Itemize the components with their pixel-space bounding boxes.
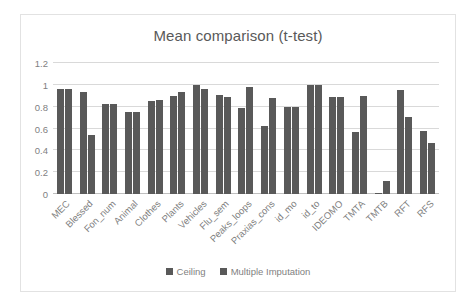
- x-axis-tick-label: RFT: [392, 198, 413, 219]
- bar: [133, 112, 140, 194]
- bar: [178, 92, 185, 194]
- chart-legend: CeilingMultiple Imputation: [21, 266, 455, 277]
- bar-group: [416, 63, 439, 194]
- bar: [201, 89, 208, 194]
- x-tick-slot: RFT: [394, 194, 417, 264]
- bar-group: [280, 63, 303, 194]
- bar: [193, 85, 200, 194]
- x-tick-slot: Fon_num: [98, 194, 121, 264]
- bar: [102, 104, 109, 194]
- x-tick-slot: TMTB: [371, 194, 394, 264]
- bar: [80, 92, 87, 194]
- legend-swatch-icon: [166, 268, 173, 275]
- bar: [224, 97, 231, 194]
- bar-group: [76, 63, 99, 194]
- bar: [405, 117, 412, 195]
- bar: [246, 87, 253, 194]
- bar-group: [189, 63, 212, 194]
- bar-group: [235, 63, 258, 194]
- bar: [238, 108, 245, 194]
- bar-group: [53, 63, 76, 194]
- y-axis-tick-label: 0.4: [35, 145, 48, 156]
- bar-group: [371, 63, 394, 194]
- bar-group: [121, 63, 144, 194]
- x-axis-tick-labels: MECBlessedFon_numAnimalClothesPlantsVehi…: [53, 194, 439, 264]
- bar-group: [394, 63, 417, 194]
- bar-group: [167, 63, 190, 194]
- bar: [57, 89, 64, 194]
- bar-group: [348, 63, 371, 194]
- bar: [216, 95, 223, 194]
- legend-item[interactable]: Ceiling: [166, 266, 206, 277]
- bar-series-layer: [53, 63, 439, 194]
- bar: [261, 126, 268, 194]
- bar: [269, 98, 276, 194]
- bar: [88, 135, 95, 194]
- bar-group: [325, 63, 348, 194]
- x-tick-slot: Clothes: [144, 194, 167, 264]
- y-axis-tick-label: 1.2: [35, 58, 48, 69]
- bar: [315, 85, 322, 194]
- x-tick-slot: Animal: [121, 194, 144, 264]
- bar: [156, 100, 163, 194]
- bar: [292, 107, 299, 194]
- bar: [284, 107, 291, 194]
- x-axis-tick-label: RFS: [414, 198, 435, 219]
- x-tick-slot: Praxias_cons: [257, 194, 280, 264]
- bar: [65, 89, 72, 194]
- x-tick-slot: Vehicles: [189, 194, 212, 264]
- bar: [329, 97, 336, 194]
- bar-group: [98, 63, 121, 194]
- bar: [307, 85, 314, 194]
- bar: [397, 90, 404, 194]
- bar: [352, 132, 359, 194]
- legend-label: Multiple Imputation: [231, 266, 311, 277]
- bar-group: [212, 63, 235, 194]
- bar: [148, 101, 155, 194]
- bar: [420, 131, 427, 194]
- y-axis-tick-label: 0.8: [35, 101, 48, 112]
- bar-group: [257, 63, 280, 194]
- x-tick-slot: TMTA: [348, 194, 371, 264]
- legend-item[interactable]: Multiple Imputation: [220, 266, 311, 277]
- chart-container: Mean comparison (t-test) 00.20.40.60.811…: [20, 14, 456, 292]
- y-axis-tick-label: 0: [43, 189, 48, 200]
- chart-title: Mean comparison (t-test): [21, 27, 455, 44]
- y-axis-tick-label: 0.6: [35, 123, 48, 134]
- plot-area: 00.20.40.60.811.2: [53, 63, 439, 194]
- bar: [428, 143, 435, 194]
- bar-group: [303, 63, 326, 194]
- bar: [125, 112, 132, 194]
- legend-swatch-icon: [220, 268, 227, 275]
- y-axis-tick-label: 0.2: [35, 167, 48, 178]
- legend-label: Ceiling: [177, 266, 206, 277]
- x-tick-slot: IDEOMO: [325, 194, 348, 264]
- x-tick-slot: id_mo: [280, 194, 303, 264]
- bar: [360, 96, 367, 194]
- bar: [170, 96, 177, 194]
- bar: [110, 104, 117, 194]
- bar: [383, 181, 390, 194]
- y-axis-tick-label: 1: [43, 79, 48, 90]
- bar: [337, 97, 344, 194]
- bar-group: [144, 63, 167, 194]
- x-tick-slot: RFS: [416, 194, 439, 264]
- x-tick-slot: MEC: [53, 194, 76, 264]
- x-tick-slot: Plants: [167, 194, 190, 264]
